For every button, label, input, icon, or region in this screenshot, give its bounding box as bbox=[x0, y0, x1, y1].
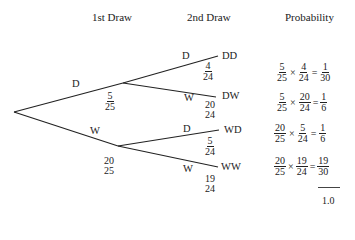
factor-b: 424 bbox=[299, 62, 309, 83]
equals-sign: = bbox=[308, 128, 320, 139]
prob-den: 24 bbox=[203, 72, 213, 82]
sum-divider bbox=[318, 187, 340, 188]
prob-wd: 5 24 bbox=[205, 136, 215, 157]
branch-root-w bbox=[14, 112, 118, 146]
probability-dd: 525 × 424 = 130 bbox=[277, 62, 330, 83]
branch-label-d: D bbox=[72, 78, 80, 89]
equals-sign: = bbox=[311, 97, 321, 108]
times-sign: × bbox=[287, 97, 299, 108]
outcome-dw: DW bbox=[222, 90, 240, 101]
result: 130 bbox=[320, 62, 330, 83]
result: 16 bbox=[319, 123, 326, 144]
prob-first-w: 20 25 bbox=[103, 156, 115, 176]
probability-ww: 2025 × 1924 = 1930 bbox=[274, 156, 329, 177]
factor-a: 2025 bbox=[274, 123, 286, 144]
probability-wd: 2025 × 524 = 16 bbox=[274, 123, 326, 144]
result: 16 bbox=[320, 92, 327, 113]
equals-sign: = bbox=[309, 67, 321, 78]
branch-label-dw: W bbox=[184, 92, 194, 103]
branch-label-dd: D bbox=[182, 50, 190, 61]
factor-a: 525 bbox=[277, 92, 287, 113]
equals-sign: = bbox=[308, 161, 318, 172]
prob-den: 25 bbox=[104, 166, 114, 176]
branch-w-ww bbox=[118, 146, 218, 167]
outcome-dd: DD bbox=[222, 50, 237, 61]
branch-label-w: W bbox=[90, 125, 100, 136]
times-sign: × bbox=[287, 67, 299, 78]
result: 1930 bbox=[317, 156, 329, 177]
prob-den: 24 bbox=[205, 147, 215, 157]
probability-dw: 525 × 2024 = 16 bbox=[277, 92, 327, 113]
total-probability: 1.0 bbox=[322, 195, 335, 206]
factor-b: 2024 bbox=[299, 92, 311, 113]
branch-label-wd: D bbox=[183, 123, 191, 134]
outcome-ww: WW bbox=[221, 161, 241, 172]
factor-b: 1924 bbox=[296, 156, 308, 177]
prob-ww: 19 24 bbox=[204, 174, 216, 194]
times-sign: × bbox=[286, 161, 296, 172]
prob-den: 24 bbox=[205, 110, 215, 120]
prob-den: 24 bbox=[205, 184, 215, 194]
times-sign: × bbox=[286, 128, 298, 139]
factor-b: 524 bbox=[298, 123, 308, 144]
prob-first-d: 5 25 bbox=[105, 91, 115, 112]
branch-d-dw bbox=[123, 83, 216, 97]
factor-a: 2025 bbox=[274, 156, 286, 177]
prob-dd: 4 24 bbox=[203, 61, 213, 82]
factor-a: 525 bbox=[277, 62, 287, 83]
outcome-wd: WD bbox=[224, 124, 242, 135]
prob-den: 25 bbox=[105, 102, 115, 112]
branch-label-ww: W bbox=[183, 163, 193, 174]
prob-dw: 20 24 bbox=[204, 100, 216, 120]
branch-w-wd bbox=[118, 130, 219, 146]
